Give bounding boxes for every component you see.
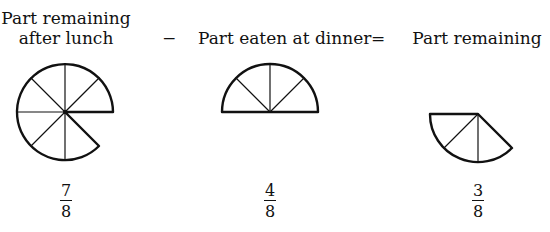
pie-seven-eighths (17, 64, 113, 160)
numerator: 4 (255, 182, 285, 199)
denominator: 8 (255, 203, 285, 220)
fraction-bar (60, 200, 72, 201)
fraction-seven-eighths: 7 8 (51, 182, 81, 220)
fraction-four-eighths: 4 8 (255, 182, 285, 220)
fraction-bar (264, 200, 276, 201)
fraction-bar (472, 200, 484, 201)
fraction-three-eighths: 3 8 (463, 182, 493, 220)
numerator: 3 (463, 182, 493, 199)
numerator: 7 (51, 182, 81, 199)
pie-four-eighths (222, 64, 318, 112)
pie-three-eighths (430, 114, 512, 162)
denominator: 8 (51, 203, 81, 220)
denominator: 8 (463, 203, 493, 220)
